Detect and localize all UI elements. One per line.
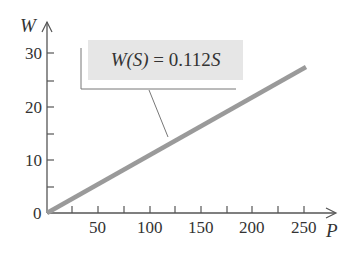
x-tick-label-200: 200 bbox=[239, 218, 265, 237]
x-tick-label-50: 50 bbox=[89, 218, 106, 237]
x-axis-label: P bbox=[325, 220, 338, 241]
y-ticks bbox=[47, 53, 54, 187]
chart-canvas: W 30 20 10 0 50 100 150 200 250 P bbox=[0, 0, 353, 255]
y-tick-label-10: 10 bbox=[25, 151, 42, 170]
equation-lhs: W(S) bbox=[111, 49, 149, 71]
equation-equals: = bbox=[149, 49, 169, 71]
y-tick-label-20: 20 bbox=[25, 98, 42, 117]
y-axis-label: W bbox=[20, 15, 38, 36]
y-tick-label-30: 30 bbox=[25, 44, 42, 63]
equation-callout: W(S) = 0.112 S bbox=[88, 40, 243, 80]
equation-variable: S bbox=[211, 49, 221, 71]
x-tick-label-250: 250 bbox=[291, 218, 317, 237]
equation-coefficient: 0.112 bbox=[169, 49, 211, 71]
x-ticks bbox=[72, 206, 304, 213]
origin-label: 0 bbox=[33, 204, 42, 223]
x-tick-label-100: 100 bbox=[137, 218, 163, 237]
x-tick-label-150: 150 bbox=[188, 218, 214, 237]
callout-leader-line bbox=[149, 90, 168, 137]
